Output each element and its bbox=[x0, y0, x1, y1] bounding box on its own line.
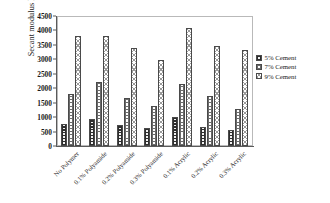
x-tick-label: No Polymer bbox=[52, 150, 80, 178]
bar bbox=[186, 28, 192, 146]
bar bbox=[235, 109, 241, 146]
bar bbox=[214, 46, 220, 146]
y-tick-label: 3000 bbox=[37, 55, 52, 64]
legend-label: 7% Cement bbox=[265, 63, 297, 70]
x-tick-label: 0.3% Acrylic bbox=[217, 150, 247, 180]
bar-group bbox=[168, 16, 196, 146]
bar bbox=[158, 60, 164, 146]
bar-chart: Secant modulus E50 (kg/cm2) 050010001500… bbox=[0, 0, 330, 203]
bar-group bbox=[196, 16, 224, 146]
legend-item[interactable]: 7% Cement bbox=[256, 63, 328, 70]
bar bbox=[207, 96, 213, 146]
bar-group bbox=[224, 16, 252, 146]
legend-label: 9% Cement bbox=[265, 73, 297, 80]
bar-group bbox=[113, 16, 141, 146]
bar bbox=[151, 106, 157, 146]
x-axis-line bbox=[56, 146, 254, 147]
bar-group bbox=[85, 16, 113, 146]
bar bbox=[144, 128, 150, 146]
bar bbox=[75, 36, 81, 146]
legend-item[interactable]: 5% Cement bbox=[256, 54, 328, 61]
legend-label: 5% Cement bbox=[265, 54, 297, 61]
x-tick-label: 0.2% Acrylic bbox=[190, 150, 220, 180]
x-axis-ticks: No Polymer0.1% Polyamide0.2% Polyamide0.… bbox=[57, 148, 252, 203]
bar bbox=[172, 117, 178, 146]
bar-group bbox=[57, 16, 85, 146]
legend-swatch-icon bbox=[256, 73, 262, 79]
y-tick-label: 2000 bbox=[37, 84, 52, 93]
legend-swatch-icon bbox=[256, 55, 262, 61]
y-tick-label: 3500 bbox=[37, 40, 52, 49]
x-tick-label: 0.1% Acrylic bbox=[162, 150, 192, 180]
y-axis-ticks: 050010001500200025003000350040004500 bbox=[0, 0, 56, 163]
legend-item[interactable]: 9% Cement bbox=[256, 73, 328, 80]
y-tick-label: 4000 bbox=[37, 26, 52, 35]
y-tick-label: 4500 bbox=[37, 12, 52, 21]
bar-group bbox=[141, 16, 169, 146]
bar bbox=[68, 94, 74, 146]
y-tick-label: 500 bbox=[41, 127, 52, 136]
bar bbox=[200, 127, 206, 146]
bar bbox=[96, 82, 102, 146]
bar bbox=[242, 50, 248, 146]
y-tick-label: 1000 bbox=[37, 113, 52, 122]
chart-legend: 5% Cement7% Cement9% Cement bbox=[256, 54, 328, 80]
bar bbox=[89, 119, 95, 146]
bar bbox=[179, 84, 185, 146]
bar bbox=[117, 125, 123, 146]
bar bbox=[103, 36, 109, 146]
bar bbox=[124, 98, 130, 146]
bar bbox=[131, 48, 137, 146]
bar bbox=[228, 130, 234, 146]
bar bbox=[61, 124, 67, 146]
legend-swatch-icon bbox=[256, 64, 262, 70]
bar-groups bbox=[57, 16, 252, 146]
y-tick-label: 1500 bbox=[37, 98, 52, 107]
y-tick-label: 2500 bbox=[37, 69, 52, 78]
y-tick-label: 0 bbox=[48, 142, 52, 151]
